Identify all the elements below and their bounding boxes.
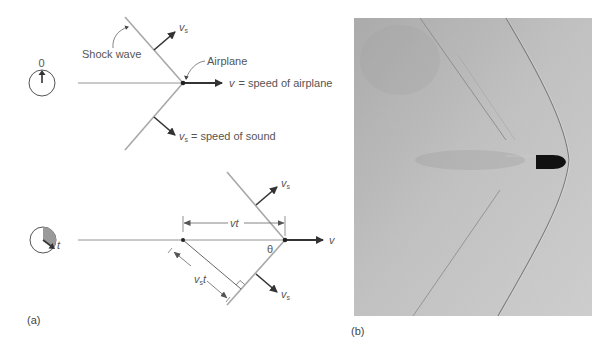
shock-wave-upper-line [227,172,285,240]
shock-wave-pointer [113,27,128,48]
origin-dot [181,238,185,242]
theta-label: θ [267,243,273,255]
vs-label-upper: vs [179,21,189,34]
bullet-photograph [354,18,592,316]
clock-label-zero: 0 [39,57,45,69]
clock-icon-time-t [30,227,56,253]
airplane-pointer [186,61,205,79]
shock-wave-label: Shock wave [82,48,141,60]
panel-b-label: (b) [351,325,364,337]
top-diagram: 0 vs Shock wave Airplane v= speed of air… [29,17,332,150]
airplane-dot [283,238,288,243]
shock-wave-lower-line [227,240,285,305]
v-label: v [329,234,336,246]
sound-velocity-arrow-upper [256,187,277,205]
clock-icon-time-zero [29,70,55,96]
sound-speed-label: vs= speed of sound [179,130,276,143]
shock-wave-figure: 0 vs Shock wave Airplane v= speed of air… [0,0,612,349]
vst-dimension-lower [207,281,227,298]
airplane-label: Airplane [207,55,247,67]
vst-label: vst [194,273,207,286]
airplane-dot [181,81,186,86]
vs-label-lower: vs [281,288,291,301]
airplane-speed-label: v= speed of airplane [229,77,332,89]
bottom-diagram: t vt vst θ v [30,172,336,305]
panel-a-label: (a) [27,314,40,326]
right-angle-marker [236,281,245,286]
shock-wave-lower-line [125,83,183,150]
vs-label-upper: vs [281,177,291,190]
vt-label: vt [230,217,240,229]
sound-velocity-arrow-upper [154,32,175,50]
vst-dimension-upper [174,252,191,266]
bullet-shape [536,155,566,169]
clock-label-t: t [57,239,61,251]
perpendicular-line [183,240,241,289]
sound-velocity-arrow-lower [154,117,175,135]
sound-velocity-arrow-lower [256,274,277,292]
